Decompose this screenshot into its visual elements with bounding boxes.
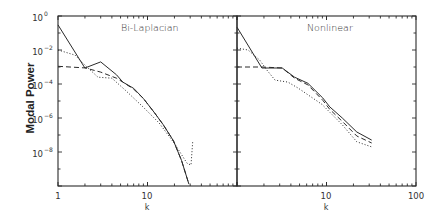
x-axis-label-left: k	[145, 203, 150, 212]
panel-title-nonlinear: Nonlinear	[307, 22, 353, 33]
y-tick-label: 10	[32, 115, 43, 125]
y-tick-label: 10	[32, 13, 43, 23]
y-tick-label: 10	[32, 81, 43, 91]
series-lines	[58, 25, 372, 184]
panel-frame-nonlinear	[237, 16, 416, 186]
x-tick-label-10-right: 10	[321, 191, 332, 201]
y-tick-exponent: −6	[44, 112, 53, 119]
x-tick-label-100: 100	[408, 191, 424, 201]
x-axis-label-right: k	[324, 203, 329, 212]
x-tick-label-1: 1	[55, 191, 60, 201]
x-tick-label-10-left: 10	[142, 191, 153, 201]
modal-power-figure: Bi-Laplacian Nonlinear Modal Power 10 0 …	[0, 0, 443, 220]
y-tick-exponent: 0	[44, 10, 48, 17]
y-tick-exponent: −2	[44, 44, 53, 51]
y-tick-exponent: −8	[44, 146, 53, 153]
series-dashed-line	[237, 67, 372, 143]
y-tick-label: 10	[32, 47, 43, 57]
panel-frame-bi-laplacian	[58, 16, 237, 186]
y-tick-label: 10	[32, 149, 43, 159]
y-tick-exponent: −4	[44, 78, 53, 85]
series-dotted-line	[237, 48, 372, 147]
series-dashed-line	[58, 66, 189, 184]
series-solid-line	[58, 25, 189, 184]
panel-title-bi-laplacian: Bi-Laplacian	[121, 22, 179, 33]
x-tick-labels: 1 10 10 100	[55, 191, 424, 201]
y-tick-labels: 10 0 10 −2 10 −4 10 −6 10 −8	[32, 10, 53, 159]
